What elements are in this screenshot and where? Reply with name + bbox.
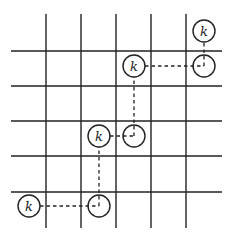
node-label: k	[200, 24, 208, 39]
k-node: k	[88, 125, 110, 147]
grid-lines	[11, 14, 222, 228]
node-label: k	[25, 199, 33, 214]
node-label: k	[95, 129, 103, 144]
grid-diagram: kkkk	[0, 0, 232, 241]
k-node: k	[193, 20, 215, 42]
k-node: k	[18, 195, 40, 217]
k-node: k	[123, 55, 145, 77]
node-label: k	[130, 59, 138, 74]
dashed-connectors	[40, 42, 204, 206]
